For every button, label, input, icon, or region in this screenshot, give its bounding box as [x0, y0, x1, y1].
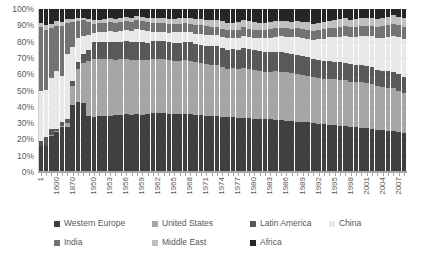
bar-column [129, 9, 134, 172]
legend-item-africa[interactable]: Africa [250, 238, 282, 247]
bar-segment-china [220, 37, 225, 48]
bar-segment-china [118, 31, 123, 42]
bar-segment-western-europe [354, 127, 359, 172]
bar-column [289, 9, 294, 172]
bar-segment-india [300, 29, 305, 38]
plot-area [38, 9, 407, 172]
bar-segment-western-europe [76, 102, 81, 172]
bar-segment-india [183, 23, 188, 31]
bar-segment-india [177, 24, 182, 32]
bar-segment-africa [161, 9, 166, 18]
bar-segment-india [305, 30, 310, 39]
y-axis-tick-label: 40% [17, 103, 34, 112]
bar-column [391, 9, 396, 172]
bar-segment-united-states [145, 60, 150, 114]
bar-segment-middle-east [311, 24, 316, 31]
bar-segment-western-europe [81, 103, 86, 172]
bar-segment-latin-america [193, 44, 198, 62]
bar-column [134, 9, 139, 172]
bar-segment-united-states [156, 59, 161, 113]
bar-segment-united-states [183, 60, 188, 114]
bar-segment-western-europe [183, 114, 188, 172]
bar-segment-china [209, 35, 214, 46]
bar-segment-latin-america [391, 72, 396, 88]
bar-segment-africa [81, 9, 86, 18]
bar-segment-china [81, 36, 86, 54]
legend-item-united-states[interactable]: United States [152, 219, 213, 228]
y-axis-tick-label: 70% [17, 54, 34, 63]
bar-segment-united-states [118, 59, 123, 115]
legend-swatch-icon [329, 221, 335, 227]
bar-column [273, 9, 278, 172]
bar-segment-latin-america [151, 41, 156, 59]
bar-segment-africa [76, 9, 81, 18]
bar-segment-latin-america [273, 52, 278, 71]
legend-row-2: IndiaMiddle EastAfrica [34, 233, 394, 252]
bar-segment-western-europe [370, 129, 375, 172]
bar-segment-latin-america [316, 60, 321, 78]
bar-segment-western-europe [386, 131, 391, 172]
bar-segment-united-states [370, 84, 375, 129]
bar-segment-china [273, 37, 278, 52]
bar-segment-india [380, 26, 385, 37]
bar-segment-western-europe [402, 133, 407, 172]
bar-segment-middle-east [295, 21, 300, 28]
bar-segment-latin-america [97, 42, 102, 59]
bar-segment-united-states [305, 76, 310, 123]
bar-segment-western-europe [268, 119, 273, 172]
bar-segment-western-europe [97, 116, 102, 172]
legend-item-latin-america[interactable]: Latin America [250, 219, 312, 228]
bar-segment-africa [118, 9, 123, 17]
bar-segment-western-europe [220, 117, 225, 172]
bar-segment-western-europe [124, 114, 129, 172]
bar-segment-china [215, 35, 220, 46]
bar-segment-latin-america [247, 49, 252, 69]
bar-segment-africa [263, 9, 268, 22]
bar-segment-united-states [273, 71, 278, 120]
bar-segment-africa [156, 9, 161, 18]
legend-item-middle-east[interactable]: Middle East [152, 238, 206, 247]
bar-segment-united-states [241, 68, 246, 118]
bar-column [359, 9, 364, 172]
bar-segment-western-europe [225, 117, 230, 172]
bar-segment-middle-east [343, 18, 348, 26]
bar-column [380, 9, 385, 172]
legend-item-western-europe[interactable]: Western Europe [54, 219, 125, 228]
bar-segment-africa [380, 9, 385, 18]
legend-item-india[interactable]: India [54, 238, 82, 247]
bar-column [44, 9, 49, 172]
bar-segment-china [311, 40, 316, 59]
bar-segment-western-europe [257, 119, 262, 172]
bar-segment-africa [134, 9, 139, 16]
bar-segment-china [354, 37, 359, 65]
bar-segment-china [348, 37, 353, 64]
bar-column [402, 9, 407, 172]
legend-item-china[interactable]: China [329, 219, 361, 228]
bar-segment-africa [338, 9, 343, 19]
bar-column [220, 9, 225, 172]
bar-segment-india [86, 22, 91, 35]
bar-segment-western-europe [177, 114, 182, 172]
bar-segment-western-europe [300, 122, 305, 172]
bar-segment-china [289, 37, 294, 54]
bar-segment-africa [199, 9, 204, 19]
bar-segment-united-states [300, 75, 305, 122]
bar-segment-western-europe [215, 116, 220, 172]
bar-segment-china [338, 37, 343, 62]
bar-segment-india [188, 24, 193, 33]
bar-segment-china [145, 31, 150, 42]
bar-segment-united-states [209, 65, 214, 116]
bar-segment-middle-east [305, 22, 310, 29]
bar-column [364, 9, 369, 172]
bar-segment-china [199, 34, 204, 45]
bar-segment-western-europe [151, 113, 156, 172]
bar-segment-africa [44, 9, 49, 25]
bar-segment-india [172, 24, 177, 32]
bar-segment-india [54, 26, 59, 71]
bar-segment-africa [348, 9, 353, 20]
bar-column [386, 9, 391, 172]
bar-segment-china [108, 31, 113, 42]
bar-segment-india [311, 31, 316, 40]
bar-segment-china [76, 38, 81, 61]
bar-segment-china [156, 32, 161, 41]
